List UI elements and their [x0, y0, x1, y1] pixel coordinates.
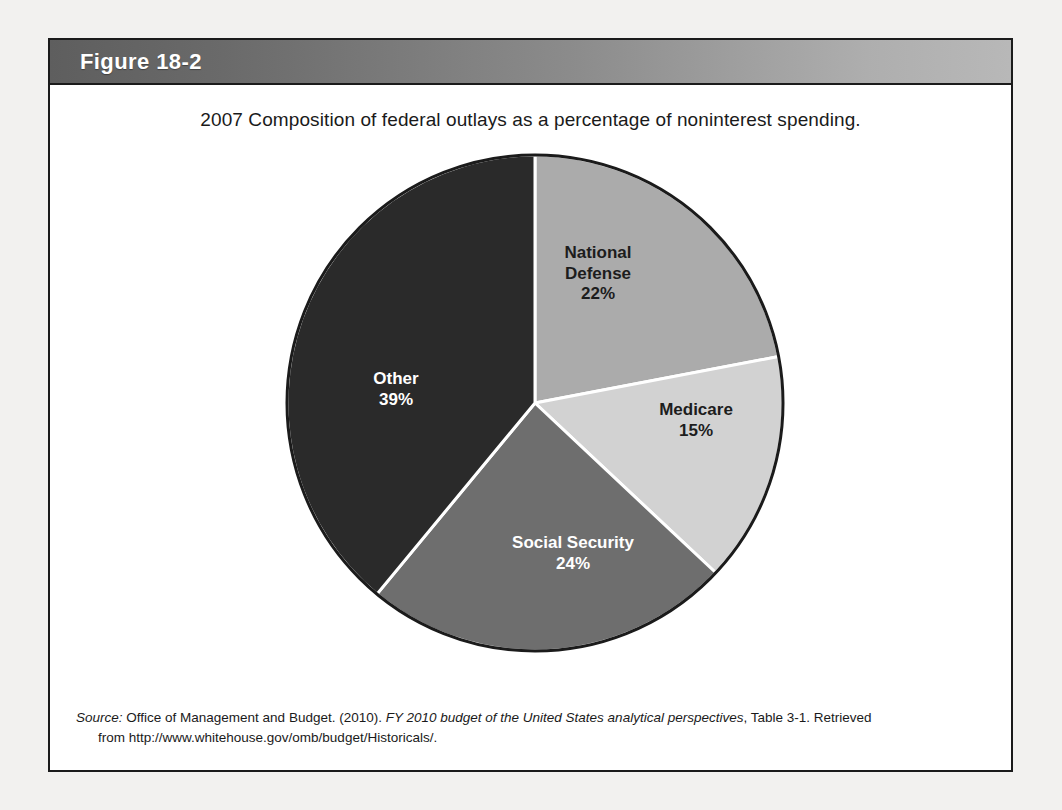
source-url-line: from http://www.whitehouse.gov/omb/budge…: [76, 728, 985, 748]
pie-chart: National Defense 22% Medicare 15% Social…: [283, 151, 787, 655]
figure-number-label: Figure 18-2: [50, 49, 202, 75]
source-locator: , Table 3-1. Retrieved: [743, 710, 871, 725]
figure-header-bar: Figure 18-2: [50, 40, 1011, 85]
figure-body: 2007 Composition of federal outlays as a…: [50, 85, 1011, 770]
pie-chart-svg: [283, 151, 787, 655]
figure-caption: 2007 Composition of federal outlays as a…: [50, 85, 1011, 131]
figure-panel: Figure 18-2 2007 Composition of federal …: [48, 38, 1013, 772]
source-citation: Source: Office of Management and Budget.…: [76, 708, 985, 749]
source-publisher: Office of Management and Budget. (2010).: [123, 710, 386, 725]
chart-area: National Defense 22% Medicare 15% Social…: [50, 131, 1011, 661]
source-label: Source:: [76, 710, 123, 725]
source-title: FY 2010 budget of the United States anal…: [386, 710, 744, 725]
